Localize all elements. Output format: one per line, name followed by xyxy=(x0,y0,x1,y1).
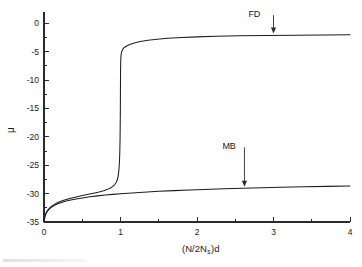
annotation-arrowhead-fd xyxy=(271,28,276,34)
y-tick-label: -5 xyxy=(31,47,39,57)
data-curves xyxy=(44,35,350,222)
y-tick-label: -25 xyxy=(27,160,40,170)
chart-figure: 0-5-10-15-20-25-30-35 01234 μ (N/2N s )d… xyxy=(0,0,362,267)
curve-mb xyxy=(44,186,350,222)
y-tick-label: 0 xyxy=(34,18,39,28)
x-tick-label: 3 xyxy=(271,227,276,237)
y-tick-label: -30 xyxy=(27,189,40,199)
annotation-arrowhead-mb xyxy=(242,181,247,187)
x-tick-label: 1 xyxy=(118,227,123,237)
x-axis-title-pre: (N/2N xyxy=(182,243,207,254)
curve-fd xyxy=(44,35,350,222)
x-axis-title-post: )d xyxy=(211,243,219,254)
y-tick-label: -10 xyxy=(27,75,40,85)
x-tick-label: 0 xyxy=(42,227,47,237)
x-axis-title: (N/2N s )d xyxy=(182,243,220,255)
y-tick-label: -35 xyxy=(27,217,40,227)
y-axis: 0-5-10-15-20-25-30-35 xyxy=(27,12,49,227)
y-axis-title: μ xyxy=(5,127,16,133)
x-axis-tick-labels: 01234 xyxy=(42,227,353,237)
x-axis-major-ticks xyxy=(44,217,350,222)
y-tick-label: -15 xyxy=(27,103,40,113)
x-tick-label: 4 xyxy=(348,227,353,237)
x-tick-label: 2 xyxy=(195,227,200,237)
x-axis: 01234 xyxy=(42,217,353,237)
y-axis-tick-labels: 0-5-10-15-20-25-30-35 xyxy=(27,18,40,227)
scan-artifact xyxy=(3,259,87,262)
annotation-label-mb: MB xyxy=(222,141,236,151)
y-tick-label: -20 xyxy=(27,132,40,142)
annotation-label-fd: FD xyxy=(248,9,260,19)
mu-vs-density-plot: 0-5-10-15-20-25-30-35 01234 μ (N/2N s )d… xyxy=(0,0,362,267)
